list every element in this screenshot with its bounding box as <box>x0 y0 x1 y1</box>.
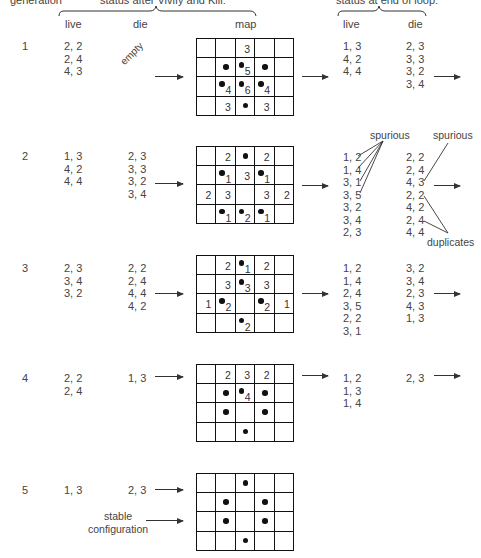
map-cell <box>255 423 274 442</box>
neighbor-count: 1 <box>264 174 270 184</box>
neighbor-count: 2 <box>284 190 290 200</box>
arrow-next-generation <box>434 76 460 77</box>
map-cell: 1 <box>255 166 274 185</box>
neighbor-count: 4 <box>264 85 270 95</box>
map-cell <box>255 403 274 422</box>
map-cell <box>216 512 235 531</box>
live-cell-dot-icon <box>262 518 268 524</box>
live-list: 2, 3 3, 4 3, 2 <box>64 262 82 300</box>
live-cell-dot-icon <box>262 499 268 505</box>
map-cell <box>255 512 274 531</box>
live-cell-dot-icon <box>239 318 245 324</box>
end-live-column-header: live <box>343 18 360 30</box>
arrow-next-generation <box>434 185 460 186</box>
neighbor-map-grid: 2324 <box>196 364 294 442</box>
live-cell-dot-icon <box>262 390 268 396</box>
end-live-list: 1, 2 1, 4 3, 1 3, 5 3, 2 3, 4 2, 3 <box>343 151 361 239</box>
map-cell: 2 <box>236 205 255 224</box>
neighbor-count: 1 <box>284 299 290 309</box>
map-cell <box>216 493 235 512</box>
map-cell: 2 <box>255 256 274 275</box>
map-cell <box>197 166 216 185</box>
arrow-next-generation <box>434 375 460 376</box>
neighbor-count: 2 <box>245 213 251 223</box>
live-cell-dot-icon <box>223 64 229 70</box>
neighbor-count: 3 <box>225 280 231 290</box>
live-cell-dot-icon <box>239 388 245 394</box>
live-cell-dot-icon <box>243 480 249 486</box>
map-cell <box>255 384 274 403</box>
live-cell-dot-icon <box>219 170 225 176</box>
live-cell-dot-icon <box>219 81 225 87</box>
end-die-column-header: die <box>408 18 423 30</box>
neighbor-count: 5 <box>245 66 251 76</box>
map-cell: 1 <box>236 256 255 275</box>
map-cell: 2 <box>275 185 294 204</box>
neighbor-count: 3 <box>225 102 231 112</box>
neighbor-count: 2 <box>225 302 231 312</box>
map-cell: 1 <box>197 294 216 313</box>
generation-number: 4 <box>22 372 28 384</box>
map-cell: 3 <box>255 185 274 204</box>
map-cell <box>197 256 216 275</box>
status-end-header: status at end of loop: <box>336 0 438 6</box>
map-cell <box>236 403 255 422</box>
map-cell <box>197 314 216 333</box>
end-live-list: 1, 2 1, 4 2, 4 3, 5 2, 2 3, 1 <box>343 262 361 337</box>
live-cell-dot-icon <box>243 153 249 159</box>
live-cell-dot-icon <box>223 409 229 415</box>
map-cell: 2 <box>216 256 235 275</box>
live-cell-dot-icon <box>243 538 249 544</box>
end-die-list: 2, 3 <box>406 372 424 385</box>
map-cell: 3 <box>255 275 274 294</box>
map-cell <box>275 58 294 77</box>
neighbor-count: 1 <box>225 213 231 223</box>
end-die-list: 2, 3 3, 3 3, 2 3, 4 <box>406 40 424 90</box>
neighbor-map-grid: 21233312212 <box>196 255 294 333</box>
live-list: 1, 3 <box>64 484 82 497</box>
map-cell <box>197 147 216 166</box>
arrow-to-map <box>155 376 183 377</box>
end-die-list: 2, 2 2, 4 4, 3 2, 2 4, 2 2, 4 4, 4 <box>406 151 424 239</box>
live-cell-dot-icon <box>258 298 264 304</box>
neighbor-count: 2 <box>225 261 231 271</box>
map-cell <box>197 403 216 422</box>
map-cell <box>197 384 216 403</box>
end-live-list: 1, 3 4, 2 4, 4 <box>343 40 361 78</box>
live-cell-dot-icon <box>223 390 229 396</box>
map-cell <box>216 314 235 333</box>
map-cell <box>216 532 235 551</box>
map-cell <box>275 423 294 442</box>
map-cell <box>236 474 255 493</box>
map-cell <box>275 384 294 403</box>
live-list: 2, 2 2, 4 <box>64 372 82 397</box>
die-list: 2, 3 3, 3 3, 2 3, 4 <box>128 150 146 200</box>
arrow-from-map <box>302 375 328 376</box>
generation-number: 3 <box>22 262 28 274</box>
map-cell: 3 <box>216 275 235 294</box>
arrow-to-map <box>155 76 183 77</box>
neighbor-map-grid: 3546433 <box>196 38 294 116</box>
arrow-to-map <box>155 183 183 184</box>
live-cell-dot-icon <box>243 103 249 109</box>
map-cell <box>197 58 216 77</box>
live-cell-dot-icon <box>258 209 264 215</box>
map-cell <box>275 256 294 275</box>
map-cell: 2 <box>236 314 255 333</box>
arrow-from-map <box>302 76 328 77</box>
generation-header: generation <box>10 0 62 6</box>
live-cell-dot-icon <box>258 170 264 176</box>
arrow-to-map <box>155 293 183 294</box>
neighbor-map-grid <box>196 473 294 551</box>
map-cell <box>255 314 274 333</box>
end-die-list: 3, 2 3, 4 2, 3 4, 3 1, 3 <box>406 262 424 325</box>
map-cell <box>216 474 235 493</box>
map-cell <box>236 185 255 204</box>
map-cell <box>236 97 255 116</box>
live-cell-dot-icon <box>239 62 245 68</box>
map-cell <box>216 384 235 403</box>
spurious-label-left: spurious <box>370 129 410 141</box>
map-cell: 6 <box>236 77 255 96</box>
map-cell: 2 <box>255 294 274 313</box>
die-list: 2, 2 2, 4 4, 4 4, 2 <box>128 262 146 312</box>
